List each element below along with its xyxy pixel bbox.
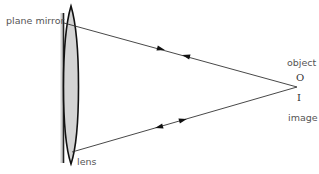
lens-label: lens: [77, 157, 96, 167]
lower-ray-arrow-left-icon: [154, 123, 163, 130]
object-symbol: O: [296, 73, 304, 83]
convex-lens: [64, 6, 79, 164]
lower-ray-arrow-right-icon: [178, 116, 187, 123]
lens-mirror-diagram: [0, 0, 319, 174]
object-label: object: [287, 58, 316, 68]
upper-ray: [64, 23, 297, 87]
upper-ray-arrow-right-icon: [156, 45, 165, 52]
image-symbol: I: [297, 93, 301, 103]
image-label: image: [288, 113, 318, 123]
plane-mirror-label: plane mirror: [6, 16, 64, 26]
